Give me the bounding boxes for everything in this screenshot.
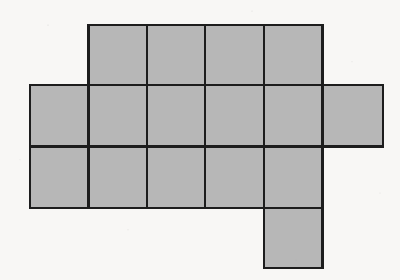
grid-cell-r0-c4 bbox=[264, 25, 323, 85]
grid-row-top-row bbox=[88, 25, 322, 85]
figure-root bbox=[0, 0, 400, 280]
grid-row-lower-middle-row bbox=[30, 147, 323, 209]
grid-cell-r1-c0 bbox=[30, 85, 88, 147]
grid-cell-r1-c3 bbox=[205, 85, 263, 147]
grid-cell-r3-c4 bbox=[264, 208, 323, 268]
grid-cell-r0-c2 bbox=[147, 25, 205, 85]
grid-row-upper-middle-row bbox=[30, 85, 383, 147]
grid-cell-r2-c3 bbox=[205, 147, 263, 209]
grid-cell-r1-c1 bbox=[88, 85, 146, 147]
grid-cell-r2-c4 bbox=[264, 147, 323, 209]
grid-row-bottom-tab-row bbox=[264, 208, 323, 268]
grid-cell-r1-c4 bbox=[264, 85, 323, 147]
grid-cell-r0-c1 bbox=[88, 25, 146, 85]
grid-cell-r0-c3 bbox=[205, 25, 263, 85]
grid-cell-r1-c2 bbox=[147, 85, 205, 147]
polyomino-grid-figure bbox=[0, 0, 400, 280]
grid-cells-layer bbox=[30, 25, 383, 268]
grid-cell-r2-c0 bbox=[30, 147, 88, 209]
grid-cell-r2-c2 bbox=[147, 147, 205, 209]
grid-cell-r2-c1 bbox=[88, 147, 146, 209]
grid-cell-r1-c5 bbox=[323, 85, 384, 147]
